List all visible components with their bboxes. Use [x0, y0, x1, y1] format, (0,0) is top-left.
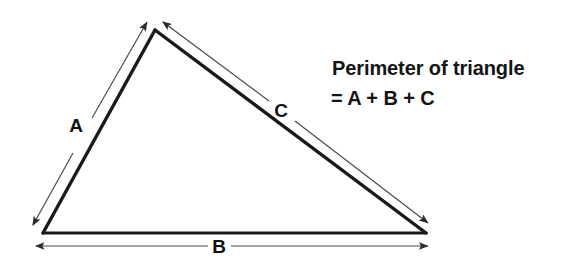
diagram-canvas: A B C Perimeter of triangle = A + B + C	[0, 0, 584, 269]
perimeter-formula-title: Perimeter of triangle	[332, 57, 524, 80]
measure-arrow-c	[163, 22, 428, 223]
perimeter-formula-equation: = A + B + C	[331, 87, 435, 110]
measure-arrow-c-upper-segment	[163, 22, 269, 101]
triangle-edge-a	[43, 30, 155, 233]
measure-arrow-a	[33, 22, 147, 225]
side-label-a: A	[69, 115, 83, 136]
side-label-c: C	[274, 100, 288, 121]
triangle-diagram: A B C	[0, 0, 584, 269]
measure-arrow-a-upper-segment	[92, 22, 147, 118]
side-label-b: B	[212, 236, 226, 257]
measure-arrow-c-lower-segment	[295, 121, 428, 223]
